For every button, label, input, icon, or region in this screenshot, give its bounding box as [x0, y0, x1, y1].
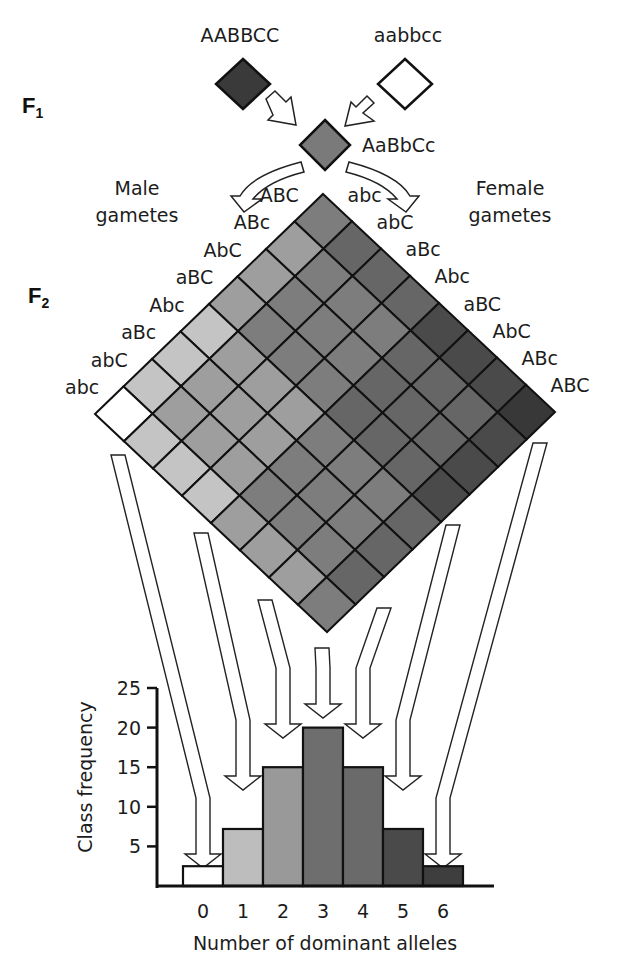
- x-tick-label: 1: [237, 900, 249, 922]
- parent-recessive-diamond: [378, 59, 432, 109]
- female-gamete-label: abC: [377, 211, 414, 233]
- f2-generation-label: F2: [28, 283, 49, 311]
- y-tick-label: 20: [117, 717, 141, 739]
- male-gamete-label: ABc: [234, 211, 270, 233]
- y-tick-label: 5: [129, 835, 141, 857]
- histogram-bar: [343, 767, 383, 886]
- histogram-bar: [303, 728, 343, 886]
- female-gamete-label: ABC: [551, 374, 590, 396]
- arrow-icon: [194, 533, 261, 790]
- male-gamete-label: aBc: [121, 321, 156, 343]
- parent-dominant-diamond: [216, 59, 270, 109]
- female-gametes-label-line2: gametes: [469, 204, 552, 226]
- male-gamete-label: abc: [65, 376, 99, 398]
- arrow-icon: [266, 91, 374, 126]
- female-gamete-label: AbC: [493, 320, 531, 342]
- y-tick-label: 15: [117, 756, 141, 778]
- female-gamete-label: Abc: [435, 265, 471, 287]
- female-gametes-label-line1: Female: [476, 177, 545, 199]
- x-tick-label: 2: [277, 900, 289, 922]
- x-tick-label: 4: [357, 900, 369, 922]
- histogram-bar: [383, 829, 423, 886]
- x-tick-label: 5: [397, 900, 409, 922]
- f1-diamond: [300, 120, 350, 170]
- male-gamete-label: AbC: [203, 239, 241, 261]
- female-gamete-label: ABc: [522, 347, 558, 369]
- male-gamete-label: aBC: [176, 266, 214, 288]
- polygenic-inheritance-figure: F1 F2 AABBCC aabbcc AaBbCc Male gametes …: [0, 0, 623, 961]
- arrow-icon: [345, 608, 391, 738]
- female-gamete-label: aBC: [464, 293, 502, 315]
- male-gametes-label-line2: gametes: [96, 204, 179, 226]
- x-tick-label: 0: [197, 900, 209, 922]
- x-axis-label: Number of dominant alleles: [193, 932, 457, 954]
- parent-recessive-genotype: aabbcc: [374, 24, 442, 46]
- histogram-bar: [423, 866, 463, 886]
- histogram-bar: [263, 767, 303, 886]
- y-axis-label: Class frequency: [74, 701, 96, 852]
- male-gamete-label: ABC: [260, 184, 299, 206]
- y-tick-label: 10: [117, 796, 141, 818]
- f1-genotype: AaBbCc: [362, 134, 435, 156]
- arrow-icon: [305, 648, 341, 718]
- x-tick-label: 3: [317, 900, 329, 922]
- y-tick-label: 25: [117, 677, 141, 699]
- histogram-bar: [223, 829, 263, 886]
- punnett-square-grid: [95, 194, 555, 632]
- female-gamete-label: abc: [348, 184, 382, 206]
- male-gamete-label: Abc: [149, 294, 185, 316]
- x-tick-label: 6: [437, 900, 449, 922]
- parent-dominant-genotype: AABBCC: [201, 24, 280, 46]
- female-gamete-label: aBc: [406, 238, 441, 260]
- male-gamete-label: abC: [91, 349, 128, 371]
- histogram-bar: [183, 866, 223, 886]
- f1-generation-label: F1: [22, 93, 43, 121]
- arrow-icon: [258, 600, 301, 738]
- male-gametes-label-line1: Male: [114, 177, 159, 199]
